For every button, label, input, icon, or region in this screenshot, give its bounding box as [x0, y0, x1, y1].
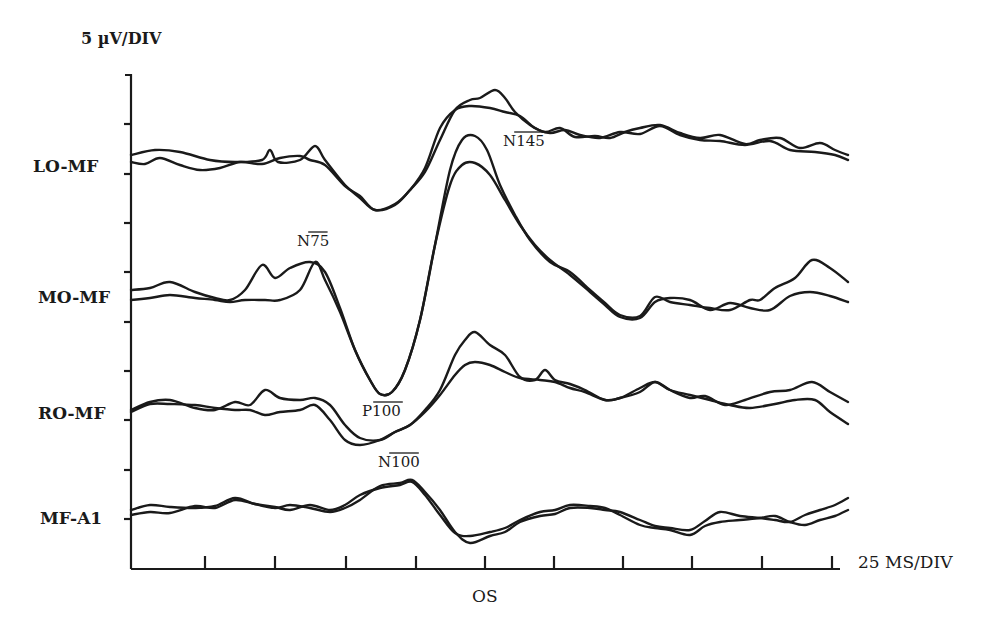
channel-label-mo-mf: MO-MF [38, 287, 110, 307]
channel-lo-mf [131, 90, 848, 210]
waveform-traces [131, 90, 848, 543]
peak-label-n100: N100 [378, 453, 420, 471]
y-scale-label: 5 µV/DIV [81, 29, 162, 48]
channel-labels: LO-MF MO-MF RO-MF MF-A1 [33, 156, 110, 528]
channel-label-mf-a1: MF-A1 [40, 508, 102, 528]
waveform-trace [131, 162, 848, 395]
axes [124, 75, 840, 569]
vep-waveform-chart: 5 µV/DIV LO-MF MO-MF RO-MF MF-A1 N75N145… [0, 0, 996, 628]
x-ticks [205, 556, 832, 569]
os-label: OS [472, 586, 498, 606]
waveform-trace [131, 482, 848, 537]
channel-label-lo-mf: LO-MF [33, 156, 98, 176]
waveform-trace [131, 332, 848, 441]
channel-label-ro-mf: RO-MF [38, 403, 106, 423]
channel-ro-mf [131, 332, 848, 445]
peak-label-n75: N75 [297, 232, 329, 250]
waveform-trace [131, 480, 848, 543]
x-scale-label: 25 MS/DIV [858, 552, 953, 572]
channel-mo-mf [131, 135, 848, 395]
peak-label-p100: P100 [362, 402, 401, 420]
channel-mf-a1 [131, 480, 848, 543]
peak-label-n145: N145 [503, 132, 545, 150]
